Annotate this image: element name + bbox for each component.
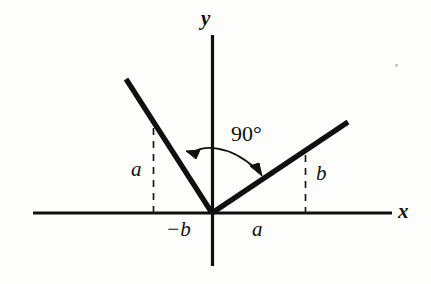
right-height-label: b [316, 163, 327, 184]
angle-arc-arrowhead-left [186, 150, 200, 159]
left-ray [126, 79, 212, 213]
figure-canvas: y x a b −b a 90° [0, 0, 431, 284]
left-x-intercept-label: −b [166, 219, 191, 240]
x-axis-label: x [398, 201, 409, 222]
y-axis-label: y [201, 8, 210, 29]
right-x-intercept-label: a [252, 219, 263, 240]
angle-arc [192, 148, 256, 169]
angle-arc-arrowhead-right [250, 163, 262, 176]
scan-speck-artifact [395, 64, 398, 67]
angle-value-label: 90° [231, 123, 262, 145]
diagram-svg [0, 0, 431, 284]
left-height-label: a [131, 159, 142, 180]
